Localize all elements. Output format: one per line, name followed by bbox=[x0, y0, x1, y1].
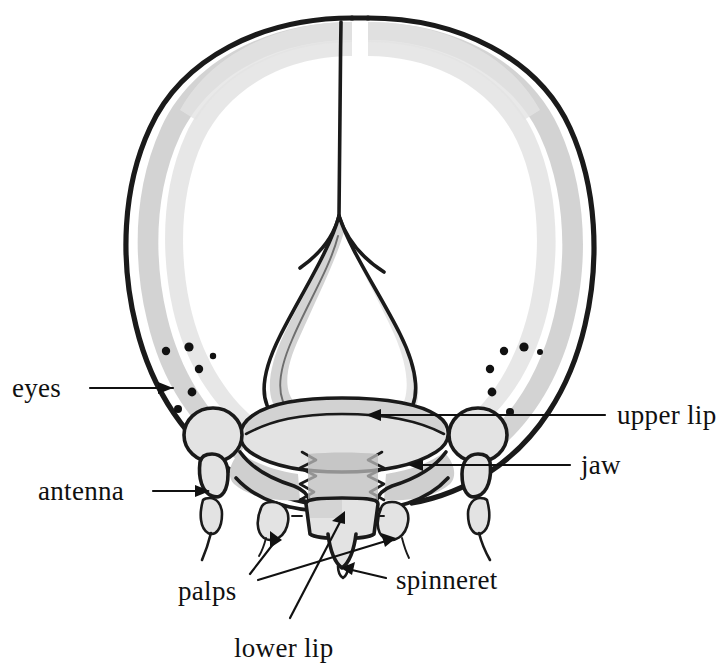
label-antenna-text: antenna bbox=[38, 476, 124, 506]
antenna-left bbox=[184, 408, 242, 560]
jaw-gap-shade bbox=[308, 453, 378, 503]
eye-dot bbox=[162, 347, 170, 355]
label-jaw-text: jaw bbox=[580, 450, 621, 480]
label-eyes-text: eyes bbox=[12, 373, 61, 403]
caterpillar-head-diagram: Caterpillar head, front view (anatomical… bbox=[0, 0, 722, 671]
eye-dot bbox=[500, 347, 508, 355]
eye-dot bbox=[188, 388, 197, 397]
label-antenna: antenna bbox=[38, 476, 210, 506]
eye-dot bbox=[174, 405, 182, 413]
antenna-right-tip bbox=[479, 533, 490, 560]
eye-dot bbox=[537, 349, 543, 355]
eye-dot bbox=[195, 365, 203, 373]
suture-stem bbox=[339, 22, 341, 216]
eye-dot bbox=[486, 365, 494, 373]
label-palps-text: palps bbox=[178, 576, 237, 606]
eye-dot bbox=[488, 388, 497, 397]
eye-dot bbox=[519, 342, 528, 351]
label-spinneret-leader bbox=[352, 570, 386, 578]
palp-inner-left-tip bbox=[402, 538, 409, 558]
label-spinneret: spinneret bbox=[341, 562, 498, 595]
label-lower-lip-text: lower lip bbox=[234, 633, 333, 663]
antenna-left-tip bbox=[202, 533, 211, 560]
eye-dot bbox=[210, 353, 216, 359]
label-upper-lip-text: upper lip bbox=[617, 400, 716, 430]
label-palps: palps bbox=[178, 531, 396, 606]
label-eyes: eyes bbox=[12, 373, 173, 403]
eye-dot bbox=[184, 342, 193, 351]
label-spinneret-text: spinneret bbox=[396, 565, 498, 595]
figure-root: Caterpillar head, front view (anatomical… bbox=[0, 0, 722, 671]
